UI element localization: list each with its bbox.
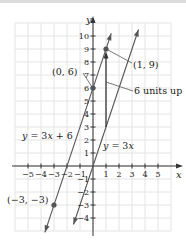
point-a-label: (0, 6) <box>52 66 78 77</box>
svg-text:4: 4 <box>84 110 89 119</box>
svg-text:8: 8 <box>84 58 89 67</box>
svg-text:3: 3 <box>84 123 89 132</box>
svg-text:9: 9 <box>84 45 89 54</box>
svg-text:5: 5 <box>155 170 160 179</box>
svg-text:1: 1 <box>103 170 108 179</box>
svg-text:3: 3 <box>129 170 134 179</box>
svg-text:−4: −4 <box>77 214 89 223</box>
x-axis-label: x <box>176 169 182 180</box>
point-c-label: (−3, −3) <box>7 194 48 205</box>
svg-text:6: 6 <box>84 84 89 93</box>
svg-text:4: 4 <box>142 170 147 179</box>
svg-text:−2: −2 <box>61 170 73 179</box>
svg-text:−5: −5 <box>22 170 34 179</box>
svg-text:−3: −3 <box>77 201 89 210</box>
svg-text:−3: −3 <box>48 170 60 179</box>
y-axis-label: y <box>85 14 92 25</box>
svg-text:2: 2 <box>116 170 121 179</box>
line1-label: y = 3x + 6 <box>21 130 73 141</box>
svg-text:−4: −4 <box>35 170 47 179</box>
svg-text:−1: −1 <box>77 175 89 184</box>
svg-text:2: 2 <box>84 136 89 145</box>
svg-text:−2: −2 <box>77 188 89 197</box>
graph: −5−4−3−2−11234510987654321−1−2−3−4 y x y… <box>0 0 186 243</box>
annotation-label: 6 units up <box>134 85 182 96</box>
svg-text:1: 1 <box>84 149 89 158</box>
line2-label: y = 3x <box>102 140 134 151</box>
svg-text:5: 5 <box>84 97 89 106</box>
svg-text:7: 7 <box>84 71 89 80</box>
point-b-label: (1, 9) <box>133 59 159 70</box>
svg-text:10: 10 <box>79 32 89 41</box>
